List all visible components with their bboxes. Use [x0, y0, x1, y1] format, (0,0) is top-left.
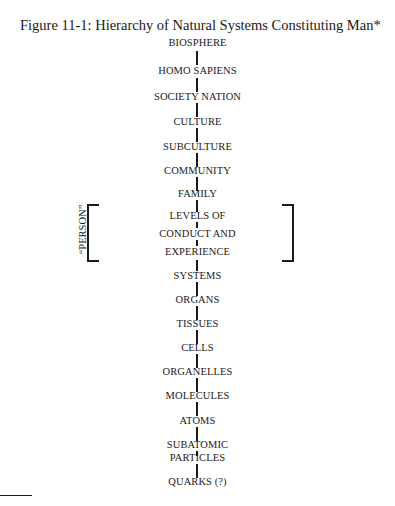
figure-title: Figure 11-1: Hierarchy of Natural System…	[20, 17, 381, 34]
connector-line	[196, 78, 198, 92]
level-particles: PARTICLES	[0, 452, 395, 463]
connector-line	[196, 103, 198, 117]
level-organelles: ORGANELLES	[0, 366, 395, 377]
person-label: “PERSON”	[77, 200, 88, 260]
person-bracket-left	[87, 204, 99, 262]
level-society-nation: SOCIETY NATION	[0, 91, 395, 102]
connector-line	[196, 402, 198, 416]
level-organs: ORGANS	[0, 294, 395, 305]
level-atoms: ATOMS	[0, 415, 395, 426]
level-quarks: QUARKS (?)	[0, 476, 395, 487]
level-tissues: TISSUES	[0, 318, 395, 329]
level-conduct-line3: EXPERIENCE	[0, 246, 395, 257]
level-conduct-line2: CONDUCT AND	[0, 228, 395, 239]
level-cells: CELLS	[0, 342, 395, 353]
connector-line	[196, 128, 198, 142]
level-biosphere: BIOSPHERE	[0, 37, 395, 48]
person-bracket-right	[282, 204, 294, 262]
footnote-rule	[0, 495, 32, 496]
level-homo-sapiens: HOMO SAPIENS	[0, 65, 395, 76]
level-family: FAMILY	[0, 188, 395, 199]
level-subatomic: SUBATOMIC	[0, 439, 395, 450]
level-systems: SYSTEMS	[0, 270, 395, 281]
level-community: COMMUNITY	[0, 165, 395, 176]
level-subculture: SUBCULTURE	[0, 141, 395, 152]
level-culture: CULTURE	[0, 116, 395, 127]
level-conduct-line1: LEVELS OF	[0, 210, 395, 221]
level-molecules: MOLECULES	[0, 390, 395, 401]
connector-line	[196, 51, 198, 65]
